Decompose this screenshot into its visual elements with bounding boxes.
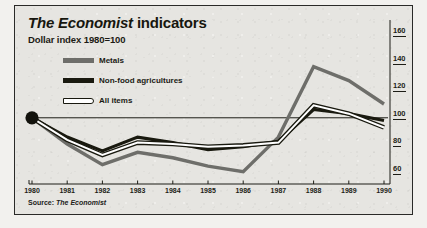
x-tick-1983: 1983 <box>130 187 146 194</box>
x-tick-1988: 1988 <box>306 187 322 194</box>
source-note: Source: The Economist <box>28 199 106 206</box>
x-tick-1982: 1982 <box>95 187 111 194</box>
y-tick-60: 60 <box>393 165 401 175</box>
series-lines <box>32 67 384 172</box>
y-tick-120: 120 <box>393 82 406 92</box>
y-tick-80: 80 <box>393 137 401 147</box>
y-tick-140: 140 <box>393 55 406 65</box>
x-tick-1985: 1985 <box>200 187 216 194</box>
x-tick-1989: 1989 <box>341 187 357 194</box>
plot-area <box>15 6 414 216</box>
origin-marker-dot <box>25 111 38 124</box>
x-tick-1984: 1984 <box>165 187 181 194</box>
axis-lines-and-ticks <box>29 20 390 184</box>
x-tick-1987: 1987 <box>271 187 287 194</box>
y-tick-160: 160 <box>393 27 406 37</box>
x-tick-1980: 1980 <box>24 187 40 194</box>
source-prefix: Source: <box>28 199 56 206</box>
y-tick-100: 100 <box>393 110 406 120</box>
source-brand: The Economist <box>56 199 106 206</box>
x-tick-1990: 1990 <box>376 187 392 194</box>
x-tick-1981: 1981 <box>59 187 75 194</box>
economist-indicators-chart: The Economist indicators Dollar index 19… <box>14 5 413 215</box>
x-tick-1986: 1986 <box>235 187 251 194</box>
